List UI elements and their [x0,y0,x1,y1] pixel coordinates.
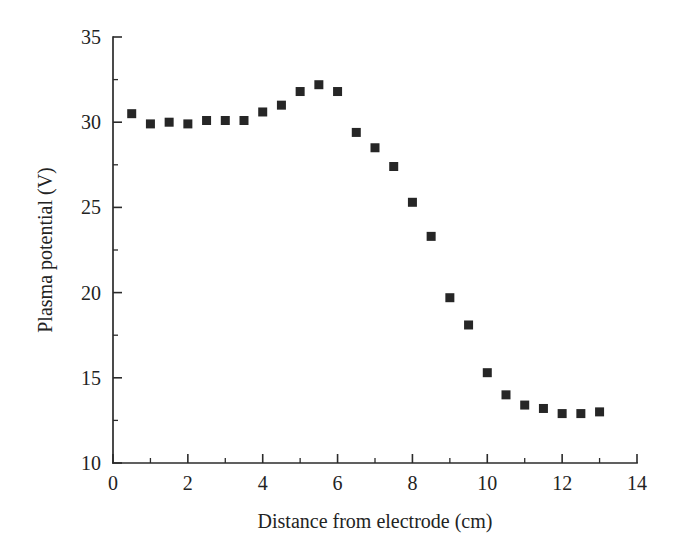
data-point [221,116,230,125]
data-point [314,80,323,89]
data-point [127,109,136,118]
x-tick-label-0: 0 [108,472,118,494]
y-tick-label-15: 15 [81,367,101,389]
data-point [258,107,267,116]
data-point [371,143,380,152]
x-axis-title: Distance from electrode (cm) [258,510,493,533]
x-tick-label-4: 4 [258,472,268,494]
data-point [483,368,492,377]
data-point [202,116,211,125]
x-tick-label-8: 8 [407,472,417,494]
data-point [240,116,249,125]
data-point [277,101,286,110]
data-point [408,198,417,207]
data-point [183,119,192,128]
data-point [502,390,511,399]
data-point [296,87,305,96]
figure-container: 02468101214 101520253035 Distance from e… [0,0,684,550]
x-tick-label-2: 2 [183,472,193,494]
y-axis-title: Plasma potential (V) [34,167,57,333]
data-point [389,162,398,171]
y-tick-label-35: 35 [81,26,101,48]
x-tick-label-10: 10 [477,472,497,494]
y-tick-label-30: 30 [81,111,101,133]
data-point [352,128,361,137]
x-tick-label-12: 12 [552,472,572,494]
data-point [539,404,548,413]
data-point [427,232,436,241]
x-tick-label-14: 14 [627,472,647,494]
data-point [165,118,174,127]
y-tick-label-20: 20 [81,282,101,304]
data-point [445,293,454,302]
data-point [576,409,585,418]
plasma-potential-scatter-chart: 02468101214 101520253035 Distance from e… [0,0,684,550]
y-tick-label-10: 10 [81,452,101,474]
chart-background [0,0,684,550]
x-tick-label-6: 6 [333,472,343,494]
data-point [464,320,473,329]
data-point [520,401,529,410]
data-point [333,87,342,96]
y-tick-label-25: 25 [81,196,101,218]
data-point [595,407,604,416]
data-point [558,409,567,418]
data-point [146,119,155,128]
